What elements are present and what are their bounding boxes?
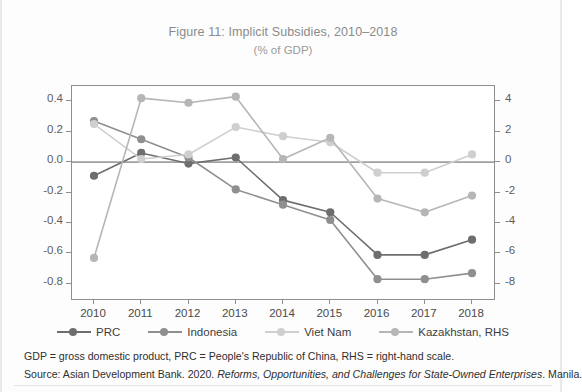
right-tick-mark bbox=[495, 222, 500, 223]
legend-line-icon bbox=[57, 331, 91, 333]
data-point bbox=[137, 155, 145, 163]
data-point bbox=[373, 169, 381, 177]
notes-block: GDP = gross domestic product, PRC = Peop… bbox=[24, 349, 548, 385]
data-point bbox=[421, 275, 429, 283]
page-title: Figure 11: Implicit Subsidies, 2010–2018 bbox=[2, 24, 564, 40]
left-tick-label: 0.0 bbox=[21, 153, 63, 165]
left-tick-label: -0.2 bbox=[21, 184, 63, 196]
right-tick-label: 2 bbox=[505, 123, 545, 135]
left-tick-mark bbox=[66, 131, 71, 132]
chart-plot-area bbox=[71, 85, 495, 300]
title-block: Figure 11: Implicit Subsidies, 2010–2018… bbox=[2, 24, 564, 58]
data-point bbox=[326, 134, 334, 142]
x-tick-mark bbox=[377, 299, 378, 304]
data-point bbox=[90, 120, 98, 128]
data-point bbox=[90, 172, 98, 180]
data-point bbox=[373, 194, 381, 202]
right-tick-label: 4 bbox=[505, 92, 545, 104]
legend-line-icon bbox=[148, 331, 182, 333]
x-tick-label: 2010 bbox=[67, 307, 119, 319]
source-title: Reforms, Opportunities, and Challenges f… bbox=[217, 368, 542, 380]
right-tick-mark bbox=[495, 192, 500, 193]
legend-item-viet-nam[interactable]: Viet Nam bbox=[265, 326, 351, 338]
chart-svg bbox=[72, 86, 494, 299]
data-point bbox=[468, 191, 476, 199]
data-point bbox=[468, 269, 476, 277]
legend-line-icon bbox=[379, 331, 413, 333]
series-line bbox=[94, 97, 472, 258]
series-viet-nam bbox=[90, 120, 476, 177]
legend-item-prc[interactable]: PRC bbox=[57, 326, 120, 338]
right-tick-label: -2 bbox=[505, 184, 545, 196]
data-point bbox=[373, 275, 381, 283]
x-tick-label: 2015 bbox=[303, 307, 355, 319]
legend-label: Kazakhstan, RHS bbox=[418, 326, 509, 338]
data-point bbox=[373, 251, 381, 259]
left-tick-label: -0.4 bbox=[21, 214, 63, 226]
x-tick-mark bbox=[424, 299, 425, 304]
data-point bbox=[232, 93, 240, 101]
data-point bbox=[184, 99, 192, 107]
data-point bbox=[279, 132, 287, 140]
legend-item-kazakhstan-rhs[interactable]: Kazakhstan, RHS bbox=[379, 326, 509, 338]
x-tick-label: 2011 bbox=[114, 307, 166, 319]
data-point bbox=[326, 208, 334, 216]
data-point bbox=[421, 208, 429, 216]
x-tick-label: 2018 bbox=[445, 307, 497, 319]
x-tick-label: 2014 bbox=[256, 307, 308, 319]
data-point bbox=[279, 201, 287, 209]
left-tick-label: 0.4 bbox=[21, 92, 63, 104]
legend-marker-icon bbox=[277, 328, 285, 336]
data-point bbox=[184, 150, 192, 158]
data-point bbox=[468, 150, 476, 158]
left-tick-mark bbox=[66, 222, 71, 223]
x-tick-mark bbox=[188, 299, 189, 304]
left-tick-mark bbox=[66, 252, 71, 253]
data-point bbox=[326, 216, 334, 224]
data-point bbox=[468, 236, 476, 244]
data-point bbox=[137, 94, 145, 102]
figure-subtitle: (% of GDP) bbox=[2, 42, 564, 58]
data-point bbox=[232, 153, 240, 161]
x-tick-label: 2016 bbox=[351, 307, 403, 319]
legend-label: Viet Nam bbox=[304, 326, 351, 338]
right-tick-mark bbox=[495, 161, 500, 162]
x-tick-mark bbox=[329, 299, 330, 304]
left-tick-label: 0.2 bbox=[21, 123, 63, 135]
left-tick-mark bbox=[66, 100, 71, 101]
abbreviations-note: GDP = gross domestic product, PRC = Peop… bbox=[24, 349, 548, 364]
right-tick-mark bbox=[495, 283, 500, 284]
x-tick-label: 2012 bbox=[162, 307, 214, 319]
data-point bbox=[232, 185, 240, 193]
x-tick-mark bbox=[140, 299, 141, 304]
x-tick-mark bbox=[235, 299, 236, 304]
right-tick-label: -4 bbox=[505, 214, 545, 226]
legend-label: PRC bbox=[96, 326, 120, 338]
left-tick-label: -0.6 bbox=[21, 244, 63, 256]
data-point bbox=[421, 251, 429, 259]
source-prefix: Source: Asian Development Bank. 2020. bbox=[24, 368, 217, 380]
data-point bbox=[232, 123, 240, 131]
left-tick-mark bbox=[66, 192, 71, 193]
right-tick-mark bbox=[495, 252, 500, 253]
x-tick-mark bbox=[471, 299, 472, 304]
data-point bbox=[90, 254, 98, 262]
x-tick-label: 2013 bbox=[209, 307, 261, 319]
right-tick-mark bbox=[495, 131, 500, 132]
right-tick-label: -6 bbox=[505, 244, 545, 256]
series-kazakhstan-rhs bbox=[90, 93, 476, 262]
bottom-divider bbox=[14, 385, 552, 386]
right-tick-mark bbox=[495, 100, 500, 101]
chart-legend: PRCIndonesiaViet NamKazakhstan, RHS bbox=[2, 326, 564, 338]
legend-marker-icon bbox=[160, 328, 168, 336]
right-tick-label: 0 bbox=[505, 153, 545, 165]
left-tick-mark bbox=[66, 161, 71, 162]
x-tick-mark bbox=[93, 299, 94, 304]
x-tick-mark bbox=[282, 299, 283, 304]
source-suffix: . Manila. bbox=[542, 368, 582, 380]
data-point bbox=[137, 135, 145, 143]
legend-marker-icon bbox=[391, 328, 399, 336]
x-tick-label: 2017 bbox=[398, 307, 450, 319]
legend-item-indonesia[interactable]: Indonesia bbox=[148, 326, 237, 338]
